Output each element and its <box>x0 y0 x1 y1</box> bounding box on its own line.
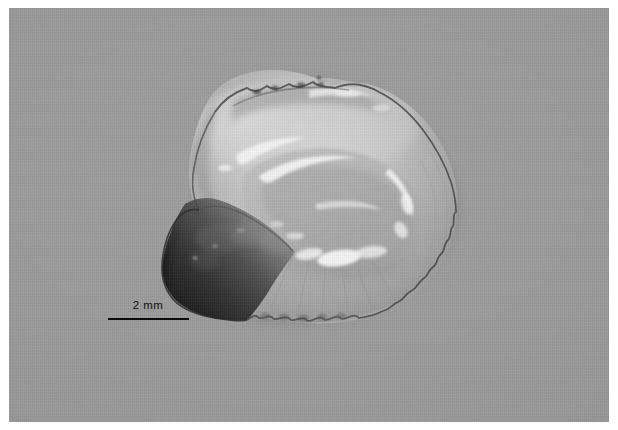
specimen-image <box>9 8 609 422</box>
otolith-specimen <box>9 8 609 422</box>
scale-bar-line <box>108 318 189 320</box>
figure-page: 2 mm <box>0 0 618 430</box>
scale-bar: 2 mm <box>100 298 196 330</box>
photograph-plate: 2 mm <box>9 8 609 422</box>
scale-bar-label: 2 mm <box>100 298 196 312</box>
